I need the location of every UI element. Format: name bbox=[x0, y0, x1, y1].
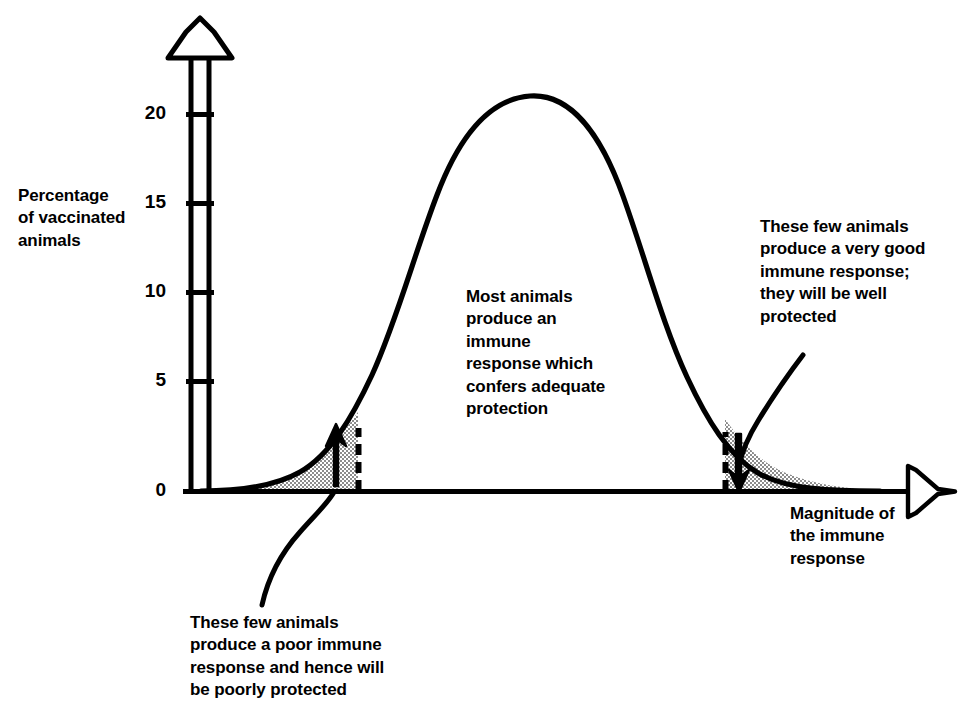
annotation-poor-responders: These few animals produce a poor immune … bbox=[190, 612, 490, 702]
shaded-region-very-good-responders bbox=[725, 419, 880, 491]
x-axis-title: Magnitude of the immune response bbox=[790, 503, 970, 570]
y-tick-label-20: 20 bbox=[126, 102, 166, 124]
annotation-most-animals: Most animals produce an immune response … bbox=[466, 286, 676, 421]
immune-response-distribution-figure: 20 15 10 5 0 Percentage of vaccinated an… bbox=[0, 0, 977, 726]
y-tick-label-0: 0 bbox=[126, 479, 166, 501]
leader-line-bottom-left bbox=[262, 492, 334, 605]
y-axis-group bbox=[168, 18, 232, 491]
annotation-very-good-responders: These few animals produce a very good im… bbox=[760, 216, 975, 328]
y-tick-label-10: 10 bbox=[126, 280, 166, 302]
y-axis-shaft bbox=[191, 58, 209, 491]
y-axis-arrowhead-icon bbox=[168, 18, 232, 58]
y-axis-title: Percentage of vaccinated animals bbox=[18, 185, 183, 252]
y-tick-label-5: 5 bbox=[126, 369, 166, 391]
